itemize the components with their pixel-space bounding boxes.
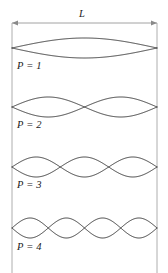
mode-label-p3: P = 3 <box>17 179 42 190</box>
mode-label-p2: P = 2 <box>17 119 42 130</box>
dimension-arrowhead-left <box>12 20 18 25</box>
wave-curve-4-lower <box>12 218 157 238</box>
wave-mode-2 <box>12 97 157 117</box>
mode-label-p4: P = 4 <box>17 241 42 252</box>
wave-curve-3-upper <box>12 157 157 177</box>
wave-curve-1-upper <box>12 48 157 58</box>
wave-curve-3-lower <box>12 157 157 177</box>
wave-mode-4 <box>12 218 157 238</box>
dimension-arrowhead-right <box>151 20 157 25</box>
length-label: L <box>79 8 85 19</box>
wave-mode-1 <box>12 38 157 58</box>
wave-curve-1-lower <box>12 38 157 48</box>
dimension-line-group <box>12 20 157 25</box>
figure-canvas <box>0 0 168 273</box>
mode-label-p1: P = 1 <box>17 60 42 71</box>
wave-mode-3 <box>12 157 157 177</box>
standing-wave-modes-figure: P = 1 P = 2 P = 3 P = 4 L <box>0 0 168 273</box>
wave-curve-2-lower <box>12 97 157 117</box>
